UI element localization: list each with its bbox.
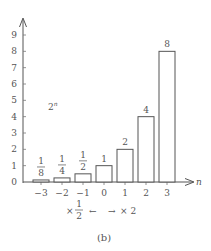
y-tick-label: 3 bbox=[11, 128, 17, 138]
bar bbox=[54, 178, 70, 182]
y-tick-label: 5 bbox=[11, 95, 17, 105]
y-tick-label: 1 bbox=[11, 161, 17, 171]
data-label: 1 bbox=[101, 154, 107, 164]
y-tick-label: 2 bbox=[11, 144, 17, 154]
bar bbox=[159, 51, 175, 182]
data-label-fraction: 12 bbox=[79, 150, 87, 172]
data-label-denominator: 2 bbox=[80, 162, 86, 172]
figure-caption: (b) bbox=[97, 232, 111, 243]
bar bbox=[75, 174, 91, 182]
bar bbox=[138, 117, 154, 182]
annotation-half-den: 2 bbox=[76, 211, 82, 221]
chart: n 0123456789 −3−2−10123 1814121248 2n × … bbox=[0, 0, 211, 251]
data-label: 2 bbox=[122, 137, 128, 147]
annotation-left-arrow: ← bbox=[89, 206, 97, 216]
data-label-numerator: 1 bbox=[80, 150, 86, 160]
x-tick-label: 3 bbox=[164, 188, 170, 198]
scaling-annotation: × 1 2 ← → × 2 bbox=[66, 199, 136, 221]
x-tick-label: −2 bbox=[55, 188, 68, 198]
data-label-denominator: 4 bbox=[59, 166, 65, 176]
x-tick-label: −1 bbox=[76, 188, 89, 198]
function-label: 2n bbox=[48, 100, 58, 112]
bar bbox=[117, 149, 133, 182]
data-label: 8 bbox=[164, 39, 170, 49]
data-label-denominator: 8 bbox=[38, 168, 44, 178]
y-tick-label: 6 bbox=[11, 79, 17, 89]
data-label-fraction: 18 bbox=[37, 156, 45, 178]
y-ticks: 0123456789 bbox=[11, 30, 26, 187]
y-tick-label: 4 bbox=[11, 112, 17, 122]
x-tick-label: −3 bbox=[34, 188, 48, 198]
annotation-times: × bbox=[66, 206, 74, 216]
x-axis-label: n bbox=[196, 177, 202, 187]
annotation-times-two: × 2 bbox=[120, 206, 136, 216]
data-label-numerator: 1 bbox=[59, 154, 65, 164]
x-tick-label: 2 bbox=[143, 188, 149, 198]
y-tick-label: 8 bbox=[11, 46, 17, 56]
x-ticks: −3−2−10123 bbox=[34, 182, 170, 198]
y-tick-label: 9 bbox=[11, 30, 17, 40]
y-tick-label: 0 bbox=[11, 177, 17, 187]
x-tick-label: 1 bbox=[122, 188, 128, 198]
data-label-numerator: 1 bbox=[38, 156, 44, 166]
annotation-half-num: 1 bbox=[76, 199, 82, 209]
data-label: 4 bbox=[143, 105, 149, 115]
data-label-fraction: 14 bbox=[58, 154, 66, 176]
y-tick-label: 7 bbox=[11, 63, 17, 73]
annotation-right-arrow: → bbox=[108, 206, 116, 216]
bar bbox=[33, 180, 49, 182]
bar bbox=[96, 166, 112, 182]
x-tick-label: 0 bbox=[101, 188, 107, 198]
